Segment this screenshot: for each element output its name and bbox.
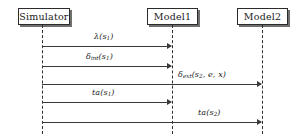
message-3-arg-close: , e, x) [203, 70, 226, 79]
participant-box-model1[interactable]: Model1 [147, 8, 198, 25]
lifeline-model2 [262, 25, 263, 134]
participant-label-simulator: Simulator [19, 11, 68, 22]
message-2-subscript: int [91, 55, 99, 61]
message-3-arg-open: (s [192, 70, 199, 79]
lifeline-model1 [172, 25, 173, 134]
message-1-arg-close: ) [110, 32, 113, 41]
message-arrow-2[interactable] [42, 66, 171, 67]
participant-box-simulator[interactable]: Simulator [18, 8, 70, 25]
message-1-arg-open: (s [99, 32, 106, 41]
message-4-arg-open: (s [100, 88, 107, 97]
message-label-5: ta(s2) [198, 108, 221, 117]
message-3-subscript: ext [183, 73, 192, 79]
arrowhead-icon-2 [167, 63, 172, 69]
message-label-3: δext(s2, e, x) [178, 70, 226, 79]
arrowhead-icon-4 [167, 99, 172, 105]
message-label-2: δint(s1) [86, 52, 113, 61]
message-label-1: λ(s1) [94, 32, 114, 41]
lifeline-simulator [42, 25, 43, 134]
message-4-base: ta [92, 88, 100, 97]
arrowhead-icon-3 [257, 81, 262, 87]
message-arrow-5[interactable] [42, 122, 261, 123]
arrowhead-icon-5 [257, 119, 262, 125]
sequence-diagram-canvas: Simulator Model1 Model2 λ(s1) δint(s1) δ… [0, 0, 299, 137]
message-4-arg-close: ) [111, 88, 114, 97]
message-5-arg-close: ) [217, 108, 220, 117]
message-5-base: ta [198, 108, 206, 117]
message-label-4: ta(s1) [92, 88, 115, 97]
message-arrow-4[interactable] [42, 102, 171, 103]
participant-box-model2[interactable]: Model2 [237, 8, 288, 25]
participant-label-model1: Model1 [154, 11, 191, 22]
message-2-arg-close: ) [110, 52, 113, 61]
participant-label-model2: Model2 [244, 11, 281, 22]
message-2-arg-open: (s [99, 52, 106, 61]
message-arrow-1[interactable] [42, 46, 171, 47]
message-arrow-3[interactable] [42, 84, 261, 85]
arrowhead-icon-1 [167, 43, 172, 49]
message-5-arg-open: (s [206, 108, 213, 117]
